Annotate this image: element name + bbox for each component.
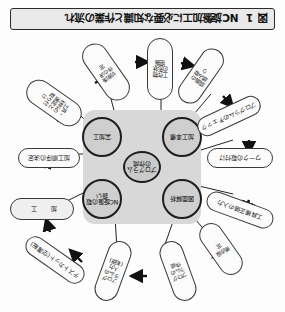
flow-pill-04[interactable]: 加 工	[10, 198, 74, 220]
core-node-kakou[interactable]: 加工準備	[162, 117, 202, 157]
flow-pill-01-label: プログラムの作成	[167, 260, 188, 283]
flow-pill-05-label: 加工順序の決定	[28, 155, 70, 162]
flow-pill-02-label: プログラムの入力(転送)	[101, 257, 124, 285]
core-node-program-label: プログラムの作成	[125, 161, 159, 174]
flow-pill-04-label: 加 工	[27, 206, 57, 213]
core-node-zumen[interactable]: 図面解析	[162, 179, 202, 219]
flow-pill-08[interactable]: 工作物の形状把握	[147, 38, 173, 100]
core-node-nc[interactable]: NC旋盤の取扱い	[82, 179, 122, 219]
flow-pill-09-label: 図面の読み取り	[189, 64, 213, 88]
flow-pill-08-label: 工作物の形状把握	[151, 60, 169, 78]
flow-pill-07-label: 切削条件の決定	[93, 59, 118, 84]
diagram-stage: 図面解析 NC旋盤の取扱い 加工準備 実加工 プログラムの作成 プログラムの作成…	[0, 0, 285, 312]
flow-pill-11-label: ワークの取付け	[219, 155, 261, 162]
core-node-jikkou[interactable]: 実加工	[82, 117, 122, 157]
core-node-kakou-label: 加工準備	[170, 134, 194, 140]
flow-pill-13-label: 原点設定	[211, 239, 231, 258]
flow-pill-05[interactable]: 加工順序の決定	[18, 148, 80, 168]
figure-root: 図 1 NC旋盤加工に必要な知識と作業の流れ	[0, 0, 285, 312]
core-node-program[interactable]: プログラムの作成	[123, 151, 161, 183]
flow-pill-11[interactable]: ワークの取付け	[207, 148, 273, 168]
core-node-zumen-label: 図面解析	[170, 196, 194, 202]
core-node-jikkou-label: 実加工	[93, 134, 111, 140]
core-node-nc-label: NC旋盤の取扱い	[84, 193, 120, 206]
